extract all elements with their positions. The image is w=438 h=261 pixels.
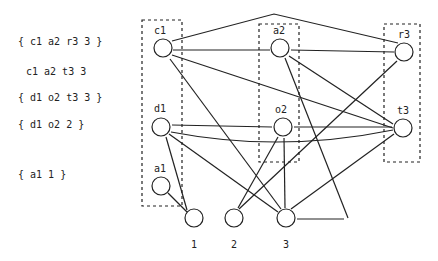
edge-a2-r3 [291,50,394,52]
node-label-c1: c1 [154,25,166,36]
edge-c1-3 [170,59,281,209]
node-3 [277,209,295,227]
node-a1 [152,177,170,195]
node-label-d1: d1 [154,103,166,114]
node-label-a1: a1 [154,163,166,174]
edge-a1-1 [168,193,187,212]
node-2 [225,209,243,227]
node-label-r3: r3 [398,29,410,40]
edge-d1-1 [166,137,187,210]
node-label-1: 1 [191,239,197,250]
node-r3 [395,43,413,61]
node-a2 [271,39,289,57]
edge-o2-3 [284,138,285,208]
node-c1 [154,39,172,57]
node-t3 [394,119,412,137]
node-o2 [274,118,292,136]
node-label-2: 2 [231,239,237,250]
node-1 [185,209,203,227]
node-label-3: 3 [283,239,289,250]
edge-d1-o2 [172,125,272,127]
edge-r3-2 [239,61,397,209]
edge-c1-t3 [172,55,393,128]
node-label-o2: o2 [275,104,287,115]
graph-diagram: c1 a2 r3 d1 o2 t3 a1 1 2 3 [0,0,438,261]
node-label-t3: t3 [397,105,409,116]
node-label-a2: a2 [273,25,285,36]
node-d1 [152,118,170,136]
edge-d1-3 [169,134,278,212]
